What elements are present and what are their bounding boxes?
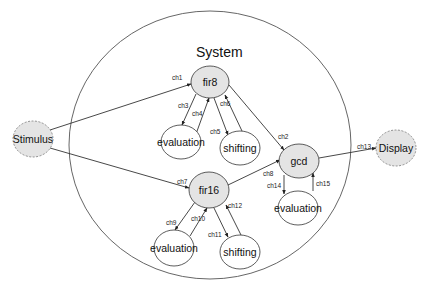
node-label: Display: [379, 142, 414, 154]
channel-label: ch7: [177, 178, 188, 185]
channel-label: ch4: [192, 110, 203, 117]
channel-label: ch3: [178, 102, 189, 109]
channel-label: ch5: [210, 128, 221, 135]
channel-ch10-arrow: [190, 208, 207, 236]
node-shift2: shifting: [220, 235, 260, 269]
node-fir8: fir8: [191, 66, 229, 98]
diagram-title: System: [196, 44, 243, 60]
node-eval1: evaluation: [157, 125, 205, 159]
node-label: shifting: [223, 246, 256, 258]
system-diagram: System ch1ch7ch2ch8ch3ch4ch5ch6ch9ch10ch…: [0, 0, 428, 287]
channel-label: ch8: [263, 170, 274, 177]
node-label: evaluation: [274, 202, 322, 214]
node-gcd: gcd: [279, 144, 319, 178]
channel-label: ch11: [208, 231, 222, 238]
node-label: shifting: [223, 142, 256, 154]
node-stimulus: Stimulus: [13, 121, 53, 157]
node-label: Stimulus: [13, 133, 53, 145]
node-fir16: fir16: [189, 172, 229, 208]
channel-label: ch1: [172, 74, 183, 81]
node-label: gcd: [291, 155, 308, 167]
nodes: Stimulusfir8evaluationshiftinggcdevaluat…: [13, 66, 416, 269]
channel-ch12-arrow: [226, 205, 241, 235]
channel-label: ch2: [278, 133, 289, 140]
channel-label: ch14: [267, 182, 281, 189]
channel-label: ch15: [316, 180, 330, 187]
channel-label: ch10: [191, 215, 205, 222]
channel-label: ch6: [220, 100, 231, 107]
node-display: Display: [376, 130, 416, 166]
channel-label: ch12: [228, 202, 242, 209]
node-label: fir8: [203, 76, 218, 88]
channels: ch1ch7ch2ch8ch3ch4ch5ch6ch9ch10ch11ch12c…: [50, 74, 376, 238]
node-label: evaluation: [157, 136, 205, 148]
channel-label: ch9: [166, 219, 177, 226]
channel-label: ch13: [357, 143, 371, 150]
node-label: evaluation: [150, 242, 198, 254]
node-eval3: evaluation: [274, 191, 322, 225]
node-label: fir16: [199, 184, 220, 196]
node-shift1: shifting: [220, 131, 260, 165]
channel-ch1-arrow: [50, 84, 191, 130]
